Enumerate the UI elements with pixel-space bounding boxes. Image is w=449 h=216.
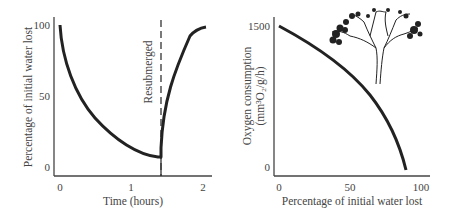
left-ytick-50: 50 [39,90,51,102]
left-ytick-0: 0 [45,161,51,173]
left-x-axis-label: Time (hours) [103,195,163,208]
right-xtick-50: 50 [345,181,357,193]
left-ytick-100: 100 [34,19,51,31]
right-xtick-100: 100 [413,181,430,193]
left-xtick-0: 0 [57,181,63,193]
left-xtick-1: 1 [128,181,134,193]
seaweed-illustration-icon [330,8,423,84]
left-xtick-2: 2 [200,181,206,193]
right-ytick-0: 0 [265,161,271,173]
right-chart: 1500 0 0 50 100 Percentage of initial wa… [241,8,430,208]
right-y-axis-label-line1: Oxygen consumption [241,46,254,145]
right-xtick-0: 0 [276,181,282,193]
left-y-axis-label: Percentage of initial water lost [22,26,35,167]
right-y-axis-label-line2: (mm³O₂/g/h) [254,66,267,125]
resubmerged-label: Resubmerged [142,40,155,103]
figure: 100 50 0 0 1 2 Time (hours) Percentage o… [0,0,449,216]
right-ytick-1500: 1500 [248,20,271,32]
oxygen-consumption-curve [279,26,406,170]
left-chart: 100 50 0 0 1 2 Time (hours) Percentage o… [22,17,212,208]
water-content-curve [60,25,206,157]
right-x-axis-label: Percentage of initial water lost [282,195,423,208]
